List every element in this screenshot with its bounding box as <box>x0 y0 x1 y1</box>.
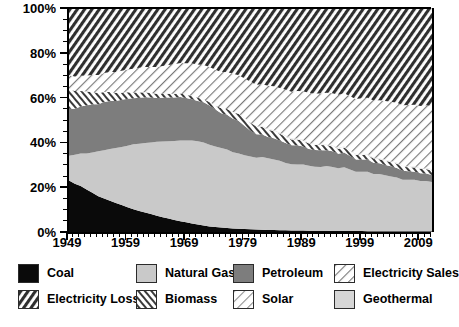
petroleum-swatch <box>233 264 254 283</box>
coal-swatch <box>18 264 39 283</box>
legend-label-electricity-sales: Electricity Sales <box>363 267 459 280</box>
natural-gas-swatch <box>136 264 157 283</box>
x-axis-labels: 1949195919691979198919992009 <box>0 236 453 256</box>
chart-legend: Coal Natural Gas Petroleum Electricity S… <box>0 260 453 324</box>
y-axis-labels: 100%80%60%40%20%0% <box>0 0 64 240</box>
geothermal-swatch <box>334 290 355 309</box>
legend-item-geothermal[interactable]: Geothermal <box>334 288 432 310</box>
legend-item-natural-gas[interactable]: Natural Gas <box>136 262 235 284</box>
legend-label-geothermal: Geothermal <box>363 293 432 306</box>
y-tick-label: 60% <box>30 92 56 105</box>
x-tick-label: 1949 <box>53 236 82 249</box>
legend-label-solar: Solar <box>262 293 293 306</box>
y-tick-label: 100% <box>23 2 56 15</box>
legend-item-petroleum[interactable]: Petroleum <box>233 262 323 284</box>
x-tick-label: 1969 <box>170 236 199 249</box>
x-tick-label: 1959 <box>111 236 140 249</box>
legend-label-natural-gas: Natural Gas <box>165 267 235 280</box>
x-tick-label: 2009 <box>404 236 433 249</box>
x-tick-label: 1989 <box>287 236 316 249</box>
legend-item-electricity-sales[interactable]: Electricity Sales <box>334 262 459 284</box>
x-tick-label: 1979 <box>228 236 257 249</box>
legend-label-electricity-loss: Electricity Loss <box>47 293 139 306</box>
electricity-sales-swatch <box>334 264 355 283</box>
y-tick-label: 80% <box>30 47 56 60</box>
stacked-area-plot <box>69 8 432 232</box>
y-tick-label: 20% <box>30 181 56 194</box>
legend-item-coal[interactable]: Coal <box>18 262 74 284</box>
y-tick-label: 40% <box>30 136 56 149</box>
biomass-swatch <box>136 290 157 309</box>
x-tick-label: 1999 <box>345 236 374 249</box>
solar-swatch <box>233 290 254 309</box>
legend-item-electricity-loss[interactable]: Electricity Loss <box>18 288 139 310</box>
legend-label-coal: Coal <box>47 267 74 280</box>
legend-label-biomass: Biomass <box>165 293 217 306</box>
electricity-loss-swatch <box>18 290 39 309</box>
legend-item-biomass[interactable]: Biomass <box>136 288 217 310</box>
legend-item-solar[interactable]: Solar <box>233 288 293 310</box>
plot-area <box>67 8 434 232</box>
legend-label-petroleum: Petroleum <box>262 267 323 280</box>
